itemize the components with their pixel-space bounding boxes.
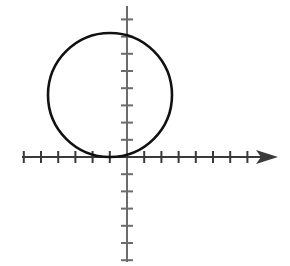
graph-figure [0,0,290,266]
coordinate-plane-svg [0,0,290,266]
figure-background [0,0,290,266]
